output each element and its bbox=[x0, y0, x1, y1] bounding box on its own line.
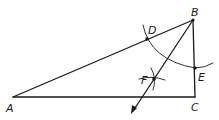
geometry-diagram: A B C D E F bbox=[0, 0, 219, 120]
segment-AB bbox=[13, 20, 193, 97]
point-D bbox=[145, 37, 149, 41]
label-A: A bbox=[5, 102, 14, 115]
point-E bbox=[193, 66, 197, 70]
label-C: C bbox=[191, 101, 199, 114]
label-D: D bbox=[148, 24, 156, 37]
label-B: B bbox=[191, 6, 199, 19]
point-F bbox=[152, 77, 156, 81]
label-E: E bbox=[198, 71, 205, 84]
segment-BC bbox=[193, 20, 195, 97]
label-F: F bbox=[141, 74, 148, 87]
